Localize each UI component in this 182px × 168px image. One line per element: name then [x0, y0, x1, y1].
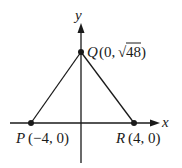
label-Q: Q (0, √ 48 ) [87, 43, 146, 61]
point-Q-radicand: 48 [126, 44, 141, 60]
point-P-name: P [15, 130, 25, 146]
point-P-coords: (−4, 0) [28, 130, 69, 147]
point-R-dot-icon [131, 120, 137, 126]
diagram-canvas: y x P (−4, 0) R (4, 0) Q (0, √ 48 ) [0, 0, 182, 168]
y-axis [78, 23, 85, 163]
y-axis-label: y [73, 7, 82, 23]
point-Q-coords-prefix: (0, [99, 44, 119, 61]
point-Q-name: Q [87, 44, 98, 60]
edge-PQ [31, 52, 81, 123]
edge-QR [81, 52, 134, 123]
y-axis-arrow-icon [78, 23, 85, 33]
point-R-coords: (4, 0) [128, 130, 161, 147]
coordinate-diagram: y x P (−4, 0) R (4, 0) Q (0, √ 48 ) [0, 0, 182, 168]
label-R: R (4, 0) [115, 130, 161, 147]
point-R-name: R [115, 130, 125, 146]
x-axis-arrow-icon [150, 120, 160, 127]
point-P-dot-icon [28, 120, 34, 126]
x-axis-label: x [161, 114, 169, 130]
point-Q-dot-icon [78, 49, 84, 55]
label-P: P (−4, 0) [15, 130, 69, 147]
point-Q-coords-suffix: ) [141, 44, 146, 61]
